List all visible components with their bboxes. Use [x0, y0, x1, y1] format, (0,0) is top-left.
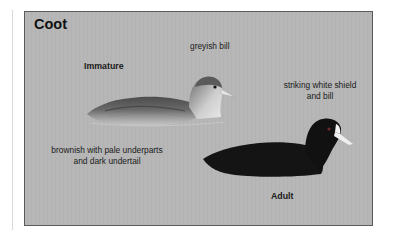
adult-shield-note: striking white shield and bill [263, 80, 377, 101]
immature-plumage-note-line2: and dark undertail [37, 156, 177, 167]
adult-shield-note-line2: and bill [263, 91, 377, 102]
page-margin-rule [12, 10, 13, 230]
species-title: Coot [34, 16, 67, 32]
immature-plumage-note: brownish with pale underparts and dark u… [37, 145, 177, 166]
adult-shield-note-line1: striking white shield [263, 80, 377, 91]
adult-coot-illustration [201, 116, 353, 178]
adult-label: Adult [271, 191, 293, 202]
immature-plumage-note-line1: brownish with pale underparts [37, 145, 177, 156]
coot-illustration-panel: Coot greyish bill Immature striking whit… [24, 11, 373, 226]
immature-bill-note: greyish bill [190, 41, 230, 52]
